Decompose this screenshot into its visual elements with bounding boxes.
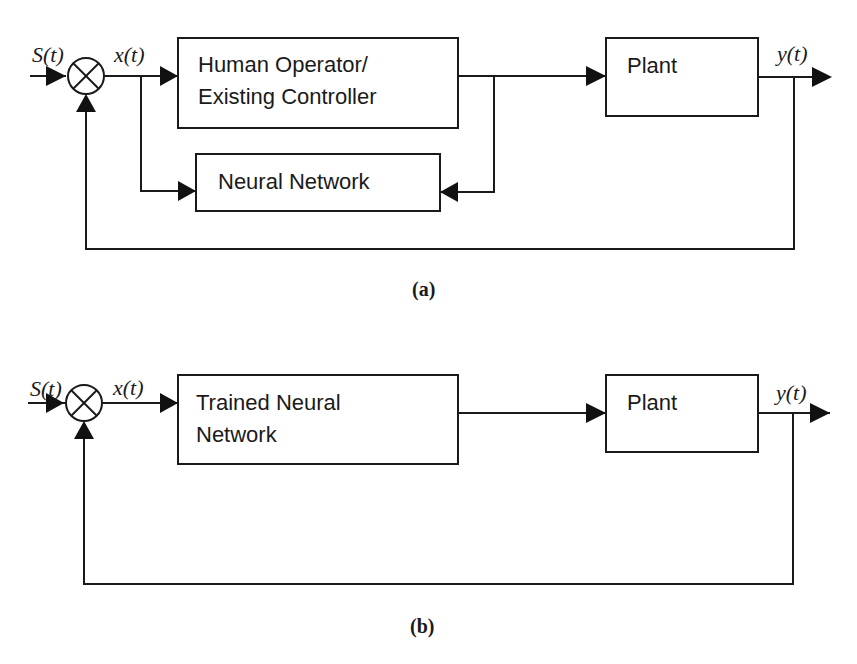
caption-a: (a)	[412, 278, 435, 301]
controller-label-line1: Human Operator/	[198, 52, 369, 77]
trained-nn-block	[178, 375, 458, 464]
output-signal-label-b: y(t)	[774, 380, 807, 405]
input-arrow-icon	[46, 66, 66, 86]
nn-input-arrow-icon	[178, 181, 196, 201]
plant-label-a: Plant	[627, 53, 677, 78]
diagram-b: S(t) x(t) Trained Neural Network Plant y…	[28, 375, 830, 638]
controller-label-line2: Existing Controller	[198, 84, 377, 109]
feedback-arrow-icon	[76, 94, 96, 112]
input-signal-label-a: S(t)	[32, 42, 64, 67]
feedback-arrow-icon	[74, 421, 94, 439]
diagram-a: S(t) x(t) Human Operator/ Existing Contr…	[30, 38, 832, 301]
output-arrow-icon	[812, 67, 832, 87]
nn-input-arrow-icon	[160, 393, 178, 413]
summing-junction-icon	[66, 385, 102, 421]
error-signal-label-a: x(t)	[113, 42, 145, 67]
caption-b: (b)	[410, 615, 434, 638]
trained-nn-label-line2: Network	[196, 422, 278, 447]
controller-input-arrow-icon	[160, 66, 178, 86]
output-arrow-icon	[810, 403, 830, 423]
input-signal-label-b: S(t)	[30, 376, 62, 401]
output-signal-label-a: y(t)	[775, 41, 808, 66]
trained-nn-label-line1: Trained Neural	[196, 390, 341, 415]
error-signal-label-b: x(t)	[112, 375, 144, 400]
nn-target-arrow-icon	[440, 182, 458, 202]
control-block-diagrams: S(t) x(t) Human Operator/ Existing Contr…	[0, 0, 857, 664]
plant-label-b: Plant	[627, 390, 677, 415]
plant-input-arrow-icon	[586, 403, 606, 423]
neural-network-label: Neural Network	[218, 169, 371, 194]
plant-input-arrow-icon	[586, 66, 606, 86]
summing-junction-icon	[68, 58, 104, 94]
